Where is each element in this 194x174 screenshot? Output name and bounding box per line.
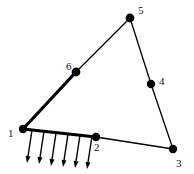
truss-diagram-figure: 123456 — [0, 0, 194, 174]
truss-node-labels-group: 123456 — [8, 4, 182, 169]
load-arrow-head — [50, 159, 55, 166]
truss-node-4 — [147, 80, 155, 88]
truss-node-label-2: 2 — [94, 141, 100, 153]
truss-member — [23, 72, 76, 129]
truss-node-label-3: 3 — [176, 157, 182, 169]
load-arrow — [62, 134, 68, 167]
load-arrow-head — [62, 160, 67, 167]
load-arrow — [74, 135, 80, 168]
truss-node-2 — [92, 133, 100, 141]
truss-node-label-4: 4 — [159, 75, 165, 87]
load-arrow-shaft — [88, 136, 92, 162]
load-arrow — [50, 133, 56, 166]
load-arrow-head — [26, 156, 31, 163]
load-arrow-shaft — [52, 133, 56, 159]
load-arrow — [26, 130, 32, 163]
load-arrow-shaft — [40, 131, 44, 157]
load-arrow-shaft — [76, 135, 80, 161]
truss-node-1 — [19, 125, 27, 133]
truss-node-label-1: 1 — [8, 127, 14, 139]
load-arrow-head — [38, 157, 43, 164]
truss-node-6 — [72, 68, 81, 77]
truss-node-3 — [169, 145, 177, 153]
load-arrow — [86, 136, 92, 169]
truss-member — [130, 18, 151, 84]
load-arrow-head — [86, 162, 91, 169]
load-arrow-shaft — [28, 130, 32, 156]
load-arrow-shaft — [64, 134, 68, 160]
truss-node-label-5: 5 — [138, 4, 144, 16]
truss-member — [23, 129, 96, 137]
truss-member — [151, 84, 173, 149]
truss-diagram-canvas: 123456 — [0, 0, 194, 174]
load-arrow-head — [74, 161, 79, 168]
load-arrow — [38, 131, 44, 164]
truss-node-label-6: 6 — [66, 60, 72, 72]
truss-member — [96, 137, 173, 149]
truss-member — [76, 18, 130, 72]
truss-node-5 — [126, 14, 135, 23]
